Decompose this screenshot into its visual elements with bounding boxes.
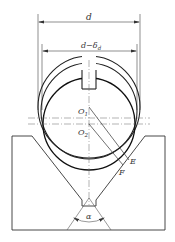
label-E: E	[129, 157, 136, 166]
label-O2: O2	[78, 128, 89, 138]
radial-lines	[89, 107, 129, 165]
label-O1: O1	[78, 107, 88, 117]
v-block-measurement-diagram: d d−δd α O1 O2	[0, 0, 175, 242]
label-d: d	[86, 12, 92, 22]
label-alpha: α	[86, 212, 92, 221]
label-F: F	[118, 168, 125, 177]
label-d-minus-delta: d−δd	[81, 41, 102, 51]
